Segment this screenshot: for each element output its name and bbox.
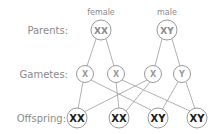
offspring-node-2: XX <box>109 108 129 128</box>
offspring-genotype-1: XX <box>69 113 85 124</box>
parent-female-genotype: XX <box>94 26 108 36</box>
line-male-to-gamete-3 <box>155 39 162 66</box>
offspring-genotype-2: XX <box>111 113 127 124</box>
row-label-offspring: Offspring: <box>17 113 66 124</box>
offspring-genotype-4: XY <box>190 113 206 124</box>
gamete-node-1: X <box>77 66 94 83</box>
line-g4-o4 <box>186 82 195 109</box>
offspring-node-4: XY <box>187 108 207 128</box>
parent-male-genotype: XY <box>160 26 174 36</box>
line-male-to-gamete-4 <box>172 39 180 66</box>
gamete-allele-3: X <box>150 70 157 79</box>
line-female-to-gamete-1 <box>87 39 96 66</box>
row-label-gametes: Gametes: <box>20 69 68 80</box>
line-g4-o3 <box>162 82 178 110</box>
line-g3-o1 <box>84 80 147 112</box>
offspring-genotype-3: XY <box>151 113 167 124</box>
line-g1-o1 <box>78 82 83 109</box>
parent-female-node: XX <box>91 20 111 40</box>
sex-label-female: female <box>87 8 115 17</box>
diagram-svg: Parents: Gametes: Offspring: female male… <box>0 0 216 134</box>
genetics-cross-diagram: Parents: Gametes: Offspring: female male… <box>0 0 216 134</box>
gamete-node-3: X <box>145 66 162 83</box>
line-g1-o3 <box>91 80 151 110</box>
line-g2-o4 <box>122 80 190 111</box>
sex-label-male: male <box>157 8 177 17</box>
line-g3-o2 <box>126 82 150 111</box>
gamete-allele-4: Y <box>178 70 185 79</box>
gamete-node-4: Y <box>174 66 191 83</box>
parent-male-node: XY <box>157 20 177 40</box>
offspring-node-1: XX <box>67 108 87 128</box>
offspring-node-3: XY <box>148 108 168 128</box>
line-female-to-gamete-2 <box>106 39 114 66</box>
gamete-allele-1: X <box>82 70 89 79</box>
gamete-node-2: X <box>108 66 125 83</box>
gamete-allele-2: X <box>113 70 120 79</box>
row-label-parents: Parents: <box>27 25 68 36</box>
